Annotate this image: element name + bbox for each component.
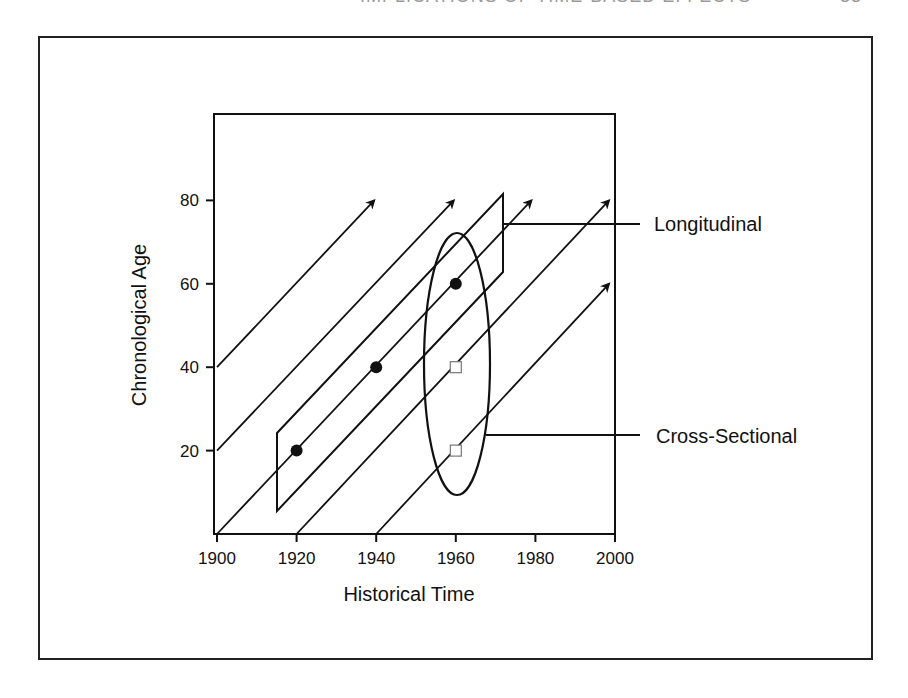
y-tick-label: 40: [180, 358, 199, 377]
x-tick-label: 1900: [198, 549, 236, 568]
filled-circle-marker: [370, 361, 382, 373]
x-axis-label: Historical Time: [343, 583, 474, 605]
axis-ticks: 19001920194019601980200020406080: [180, 191, 634, 568]
x-tick-label: 1920: [278, 549, 316, 568]
filled-circle-marker: [450, 278, 462, 290]
cross-sectional-label: Cross-Sectional: [656, 425, 797, 447]
open-square-marker: [450, 362, 461, 373]
figure: 19001920194019601980200020406080 Longitu…: [0, 0, 908, 698]
open-square-marker: [450, 445, 461, 456]
cohort-line-5: [376, 284, 609, 534]
filled-circle-marker: [291, 445, 303, 457]
longitudinal-label: Longitudinal: [654, 213, 762, 235]
x-tick-label: 1960: [437, 549, 475, 568]
y-tick-label: 60: [180, 275, 199, 294]
x-tick-label: 1980: [516, 549, 554, 568]
y-axis-label: Chronological Age: [128, 244, 150, 406]
cohort-line-1: [217, 200, 374, 367]
y-tick-label: 80: [180, 191, 199, 210]
cohort-line-2: [217, 200, 454, 450]
x-tick-label: 1940: [357, 549, 395, 568]
x-tick-label: 2000: [596, 549, 634, 568]
y-tick-label: 20: [180, 442, 199, 461]
